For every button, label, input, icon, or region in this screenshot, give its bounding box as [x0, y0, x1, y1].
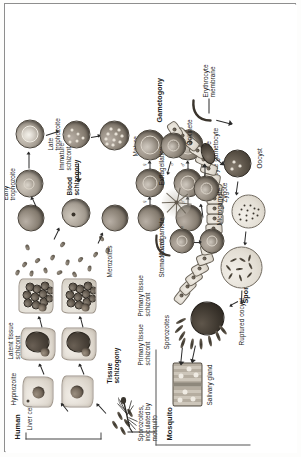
- liver-cell-primary-nucleus: [70, 385, 83, 398]
- label-salivary-gland: Salivary gland: [205, 364, 212, 405]
- immature-gametocyte-female-body: [142, 175, 157, 190]
- mature-schizont-merozoite-7: [114, 132, 117, 135]
- merozoite-cluster-lower: [61, 278, 96, 313]
- label-primary-tissue-schizont-2: Primary tissue schizont: [136, 275, 150, 316]
- mature-schizont-merozoite-10: [117, 128, 120, 131]
- immature-schizont-merozoite-4: [75, 139, 78, 142]
- erythrocyte-membrane-remnant: [190, 97, 214, 123]
- latent-schizont-host-nucleus: [40, 347, 49, 356]
- burst-sporozoite-3: [199, 338, 202, 349]
- zygote-nucleus: [200, 182, 212, 194]
- mosquito-icon: [113, 393, 141, 433]
- host-label-mosquito: Mosquito: [165, 407, 173, 440]
- salivary-gland: [172, 362, 202, 406]
- arrow-rbc-to-immature-gametocyte-f: [149, 197, 150, 205]
- free-merozoite-11: [87, 265, 92, 271]
- label-erythrocyte-membrane: Erythrocyte membrane: [201, 64, 215, 97]
- liver-cells-bracket: [25, 432, 101, 439]
- mature-schizont-merozoite-4: [109, 127, 112, 130]
- free-merozoite-7: [55, 269, 62, 275]
- arrow-immature-to-mature-gametocyte-f: [149, 161, 150, 169]
- diagram-canvas: Human Liver cells Hypnozoite: [5, 4, 297, 453]
- arrow-merozoites-reinvade: [53, 228, 59, 239]
- arrow-schizont-to-merozoites-upper: [38, 316, 42, 327]
- label-ruptured-oocyst: Ruptured oocyst: [237, 298, 244, 346]
- arrow-schizont-to-merozoites-lower: [79, 316, 83, 327]
- macrogamete-lower-nucleus: [206, 235, 217, 246]
- immature-schizont-merozoite-6: [81, 136, 84, 139]
- symbol-female-immature: ♀: [140, 199, 148, 204]
- arrow-mature-schizont-to-burst: [77, 163, 78, 181]
- free-merozoite-13: [24, 243, 30, 250]
- symbol-female-mature: ♀: [140, 162, 148, 167]
- late-trophozoite-amoeboid: [21, 125, 38, 142]
- free-merozoite-12: [92, 250, 99, 257]
- mature-schizont-merozoite-1: [105, 142, 108, 145]
- label-latent-tissue-schizont: Latent tissue schizont: [6, 322, 20, 359]
- label-sporozoites: Sporozoites: [162, 315, 169, 349]
- host-divider-vertical: [155, 444, 250, 445]
- burst-sporozoite-5: [214, 330, 221, 341]
- merozoite-cluster-upper-host-nucleus: [38, 303, 46, 311]
- mature-schizont-merozoite-2: [104, 137, 107, 140]
- rbc-uninfected-lower: [101, 204, 128, 231]
- bursting-schizont-pigment: [71, 212, 75, 216]
- arrow-oocyst-growth-3: [241, 290, 242, 303]
- arrow-macrogamete-release: [193, 242, 200, 243]
- oocyst-young: [223, 149, 251, 177]
- ruptured-oocyst: [190, 301, 224, 335]
- arrow-liver-to-primary-schizont: [79, 364, 84, 375]
- burst-sporozoite-4: [207, 335, 212, 346]
- figure-rotation-wrapper: Human Liver cells Hypnozoite: [5, 4, 297, 453]
- early-trophozoite-ring: [23, 178, 34, 189]
- mature-schizont-merozoite-9: [120, 134, 123, 137]
- rbc-uninfected-entry: [17, 204, 44, 231]
- free-merozoite-14: [59, 240, 66, 247]
- label-hypnozoite: Hypnozoite: [9, 372, 16, 405]
- mature-schizont-merozoite-3: [106, 132, 109, 135]
- figure-frame: Human Liver cells Hypnozoite: [4, 3, 296, 452]
- free-merozoite-8: [64, 259, 69, 266]
- immature-schizont-merozoite-5: [76, 132, 79, 135]
- leader-mosquito-bite: [127, 431, 155, 432]
- oocyst-young-granule-2: [232, 160, 235, 163]
- free-merozoite-3: [29, 270, 34, 277]
- arrow-sporozoites-to-gland-1: [179, 347, 182, 364]
- macrogamete-upper-nucleus: [176, 235, 187, 246]
- oocyst-young-granule-1: [230, 167, 233, 170]
- oocyst-granules: [231, 196, 263, 228]
- hypnozoite-body: [26, 399, 29, 402]
- mature-schizont-merozoite-6: [112, 138, 115, 141]
- free-merozoite-5: [42, 267, 47, 274]
- arrow-zygote-to-ookinete: [204, 164, 205, 176]
- symbol-macrogamete-female: ♀: [177, 224, 184, 229]
- free-merozoite-10: [76, 255, 83, 262]
- liver-cell-hypnozoite-nucleus: [32, 386, 44, 398]
- exflagellation-flagella: [161, 187, 191, 217]
- free-merozoite-9: [71, 270, 77, 277]
- microgametocyte-source-nucleus: [167, 139, 179, 151]
- merozoite-cluster-upper: [18, 278, 53, 313]
- burst-sporozoite-8: [175, 317, 186, 325]
- erythrocyte-membrane-remnant-2: [153, 231, 173, 257]
- arrow-early-to-late-trophozoite: [28, 152, 29, 168]
- mature-schizont-merozoite-5: [111, 143, 114, 146]
- label-merozoites: Merozoites: [105, 245, 112, 277]
- mature-schizont-merozoite-8: [118, 140, 121, 143]
- immature-schizont-merozoite-3: [70, 128, 73, 131]
- arrow-liver-to-latent-schizont: [39, 364, 44, 375]
- free-merozoite-2: [21, 260, 28, 267]
- label-primary-tissue-schizont-1: Primary tissue schizont: [136, 324, 150, 365]
- heading-gametogony: Gametogony: [155, 77, 163, 122]
- merozoite-cluster-lower-host-nucleus: [81, 303, 89, 311]
- heading-tissue-schizogony: Tissue schizogony: [105, 347, 119, 383]
- free-merozoite-4: [33, 257, 40, 264]
- figure-root: Human Liver cells Hypnozoite: [0, 0, 301, 457]
- oocyst-young-granule-3: [238, 164, 241, 167]
- arrow-immature-to-mature-schizont: [90, 135, 99, 137]
- label-early-trophozoite: Early trophozoite: [5, 168, 15, 200]
- arrow-sporozoite-to-liver-1: [96, 403, 105, 413]
- label-oocyst: Oocyst: [255, 148, 262, 168]
- host-label-human: Human: [13, 414, 21, 439]
- free-merozoite-1: [14, 268, 20, 275]
